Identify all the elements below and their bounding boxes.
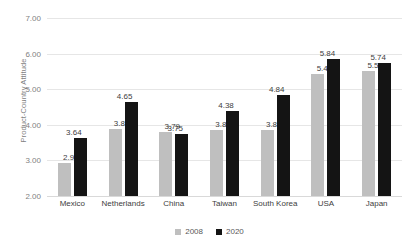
category-label-south-korea: South Korea [250,199,301,208]
bar-taiwan-2020[interactable] [226,111,239,196]
bar-netherlands-2020[interactable] [125,102,138,196]
bar-group: 3.854.84 [250,18,301,196]
bar-chart: Product-Country Attitude 7.006.005.004.0… [0,0,419,246]
plot-area: 7.006.005.004.003.002.00 2.923.643.874.6… [47,18,402,196]
bar-value-label: 5.74 [358,53,398,62]
y-axis-tick-label: 6.00 [25,49,41,58]
category-label-china: China [148,199,199,208]
bar-group: 5.435.84 [301,18,352,196]
y-axis-tick-label: 3.00 [25,156,41,165]
bar-value-label: 4.84 [257,85,297,94]
bar-value-label: 3.64 [54,128,94,137]
y-axis-tick-label: 7.00 [25,14,41,23]
legend: 20082020 [0,227,419,236]
bar-mexico-2008[interactable] [58,163,71,196]
legend-swatch-icon [175,229,181,235]
category-label-netherlands: Netherlands [98,199,149,208]
category-axis: MexicoNetherlandsChinaTaiwanSouth KoreaU… [47,199,402,208]
bar-group: 3.874.65 [98,18,149,196]
legend-swatch-icon [216,229,222,235]
bar-china-2020[interactable] [175,134,188,196]
legend-entry-2020[interactable]: 2020 [216,227,244,236]
bar-usa-2008[interactable] [311,74,324,196]
bar-japan-2008[interactable] [362,71,375,196]
bar-groups: 2.923.643.874.653.793.753.864.383.854.84… [47,18,402,196]
gridline: 2.00 [47,196,402,197]
bar-china-2008[interactable] [159,132,172,196]
y-axis-tick-label: 2.00 [25,192,41,201]
bar-netherlands-2008[interactable] [109,129,122,196]
bar-south-korea-2020[interactable] [277,95,290,196]
bar-group: 5.515.74 [351,18,402,196]
bar-value-label: 4.65 [105,92,145,101]
bar-taiwan-2008[interactable] [210,130,223,196]
bar-value-label: 4.38 [206,101,246,110]
y-axis-tick-label: 5.00 [25,85,41,94]
bar-value-label: 3.75 [155,124,195,133]
bar-south-korea-2008[interactable] [261,130,274,196]
category-label-taiwan: Taiwan [199,199,250,208]
bar-group: 2.923.64 [47,18,98,196]
bar-group: 3.864.38 [199,18,250,196]
legend-entry-2008[interactable]: 2008 [175,227,203,236]
legend-label: 2008 [185,227,203,236]
category-label-usa: USA [301,199,352,208]
bar-group: 3.793.75 [148,18,199,196]
bar-usa-2020[interactable] [327,59,340,196]
category-label-mexico: Mexico [47,199,98,208]
bar-value-label: 5.84 [307,49,347,58]
category-label-japan: Japan [351,199,402,208]
legend-label: 2020 [226,227,244,236]
bar-japan-2020[interactable] [378,63,391,196]
y-axis-tick-label: 4.00 [25,120,41,129]
bar-mexico-2020[interactable] [74,138,87,196]
